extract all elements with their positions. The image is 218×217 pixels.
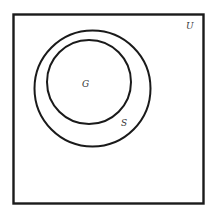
set-s-circle xyxy=(35,31,151,147)
universe-label: U xyxy=(186,21,194,31)
universe-rectangle xyxy=(14,15,204,204)
set-s-label: S xyxy=(121,118,127,128)
set-g-label: G xyxy=(82,79,89,89)
venn-diagram: U S G xyxy=(0,0,218,217)
